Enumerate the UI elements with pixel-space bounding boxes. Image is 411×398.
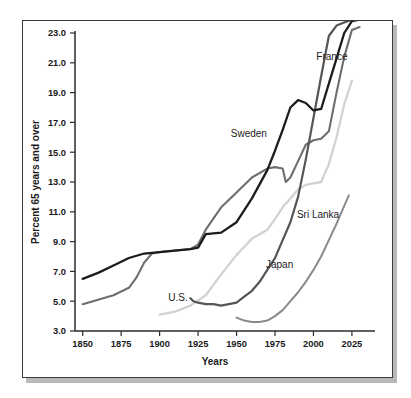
- y-tick-label: 3.0: [53, 326, 66, 336]
- y-tick-label: 11.0: [48, 207, 66, 217]
- x-tick-label: 2000: [303, 339, 324, 349]
- series-label-sweden: Sweden: [231, 128, 267, 139]
- x-tick-label: 1875: [111, 339, 132, 349]
- y-tick-label: 19.0: [48, 88, 66, 98]
- series-label-france: France: [316, 51, 348, 62]
- x-tick-label: 1925: [188, 339, 209, 349]
- series-label-u-s: U.S.: [168, 292, 187, 303]
- x-tick-label: 1950: [226, 339, 247, 349]
- y-tick-label: 9.0: [53, 237, 66, 247]
- series-label-japan: Japan: [266, 259, 293, 270]
- y-tick-label: 5.0: [53, 297, 66, 307]
- x-tick-label: 1975: [265, 339, 286, 349]
- x-tick-label: 1850: [72, 339, 93, 349]
- figure-frame: 3.05.07.09.011.013.015.017.019.021.023.0…: [22, 20, 393, 378]
- x-tick-label: 2025: [342, 339, 363, 349]
- y-tick-label: 17.0: [48, 118, 66, 128]
- y-tick-label: 7.0: [53, 267, 66, 277]
- series-label-sri-lanka: Sri Lanka: [297, 209, 340, 220]
- y-tick-label: 23.0: [48, 28, 66, 38]
- y-axis-title: Percent 65 years and over: [30, 120, 41, 244]
- y-tick-label: 21.0: [48, 58, 66, 68]
- x-axis-title: Years: [202, 356, 229, 367]
- y-tick-label: 13.0: [48, 177, 66, 187]
- y-tick-label: 15.0: [48, 148, 66, 158]
- series-line-u-s: [160, 81, 352, 315]
- x-tick-label: 1900: [149, 339, 170, 349]
- line-chart: 3.05.07.09.011.013.015.017.019.021.023.0…: [23, 21, 391, 376]
- figure-root: 3.05.07.09.011.013.015.017.019.021.023.0…: [0, 0, 411, 398]
